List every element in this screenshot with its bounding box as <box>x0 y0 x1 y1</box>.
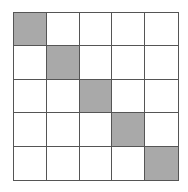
grid-cell <box>14 46 47 79</box>
grid-cell <box>80 113 113 146</box>
grid-cell <box>112 80 145 113</box>
grid-cell-filled <box>145 147 178 180</box>
grid-cell <box>145 113 178 146</box>
grid-cell <box>145 46 178 79</box>
grid-cell <box>112 46 145 79</box>
grid-cell <box>14 147 47 180</box>
grid-cell <box>14 113 47 146</box>
grid-cell <box>47 80 80 113</box>
diagonal-grid <box>13 12 179 181</box>
grid-cell <box>47 147 80 180</box>
grid-cell <box>14 80 47 113</box>
grid-cell <box>47 13 80 46</box>
grid-cell <box>112 147 145 180</box>
grid-cell <box>47 113 80 146</box>
grid-cell <box>145 13 178 46</box>
grid-cell-filled <box>14 13 47 46</box>
grid-cell-filled <box>47 46 80 79</box>
grid-cell <box>80 147 113 180</box>
grid-cell-filled <box>112 113 145 146</box>
grid-cell-filled <box>80 80 113 113</box>
grid-cell <box>112 13 145 46</box>
grid-cell <box>80 46 113 79</box>
grid-cell <box>80 13 113 46</box>
grid-cell <box>145 80 178 113</box>
